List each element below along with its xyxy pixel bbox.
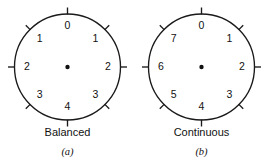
panel-subcaption: (a) xyxy=(61,146,74,158)
dial-tick-label: 4 xyxy=(65,100,71,112)
dial-tick-label: 1 xyxy=(93,32,99,44)
dial-tick xyxy=(26,25,31,30)
dial-tick-label: 2 xyxy=(105,60,111,72)
panel-caption: Balanced xyxy=(45,126,91,138)
panel-caption: Continuous xyxy=(174,126,230,138)
dial-tick-label: 6 xyxy=(158,60,164,72)
dial-center-dot xyxy=(65,65,69,69)
dial-tick-label: 3 xyxy=(93,88,99,100)
dial-tick-label: 5 xyxy=(171,88,177,100)
dial-tick-label: 4 xyxy=(199,100,205,112)
dial-tick-label: 7 xyxy=(171,32,177,44)
dial-tick xyxy=(105,104,110,109)
dial-tick xyxy=(160,104,165,109)
dial-tick xyxy=(105,25,110,30)
figure-root: 01234321 Balanced (a) 01234567 Continuou… xyxy=(0,0,267,165)
dial-tick xyxy=(239,104,244,109)
dial-panel-continuous: 01234567 Continuous (b) xyxy=(133,0,267,165)
dial-tick-label: 3 xyxy=(37,88,43,100)
dial-tick xyxy=(26,104,31,109)
dial-tick-label: 0 xyxy=(65,19,71,31)
dial-tick-label: 1 xyxy=(227,32,233,44)
dial-tick xyxy=(160,25,165,30)
dial-center-dot xyxy=(199,65,203,69)
dial-tick-label: 0 xyxy=(199,19,205,31)
dial-tick-label: 3 xyxy=(227,88,233,100)
dial-tick xyxy=(239,25,244,30)
dial-tick-label: 2 xyxy=(239,60,245,72)
panel-subcaption: (b) xyxy=(195,146,208,158)
dial-panel-balanced: 01234321 Balanced (a) xyxy=(0,0,134,165)
dial-tick-label: 1 xyxy=(37,32,43,44)
dial-tick-label: 2 xyxy=(24,60,30,72)
